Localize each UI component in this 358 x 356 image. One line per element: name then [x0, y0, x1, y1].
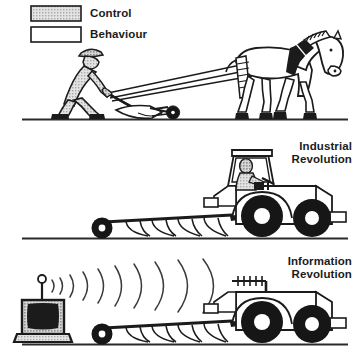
diagram-canvas: Control Behaviour Industrial Revolution … — [0, 0, 358, 356]
horse — [226, 31, 343, 119]
panel-label-information-line1: Information — [288, 255, 352, 268]
diagram-illustration — [0, 0, 358, 356]
plough — [92, 212, 253, 239]
reins — [108, 63, 252, 101]
receiving-antenna — [232, 276, 266, 292]
legend — [31, 6, 81, 42]
remote-control-unit — [14, 275, 72, 342]
panel-label-industrial: Industrial Revolution — [292, 140, 352, 166]
panel-horse-plough — [22, 31, 348, 120]
legend-label-control: Control — [90, 7, 132, 20]
legend-label-behaviour: Behaviour — [90, 28, 147, 41]
farmer — [51, 49, 112, 119]
remote-antenna-tip — [38, 275, 46, 283]
radio-waves — [52, 259, 214, 313]
panel-label-industrial-line1: Industrial — [292, 140, 352, 153]
remote-screen — [27, 303, 59, 330]
plough — [92, 318, 253, 345]
tractor — [204, 292, 346, 343]
legend-swatch-behaviour — [31, 27, 81, 42]
legend-swatch-control — [31, 6, 81, 21]
panel-label-information: Information Revolution — [288, 255, 352, 281]
panel-label-information-line2: Revolution — [288, 268, 352, 281]
panel-label-industrial-line2: Revolution — [292, 153, 352, 166]
